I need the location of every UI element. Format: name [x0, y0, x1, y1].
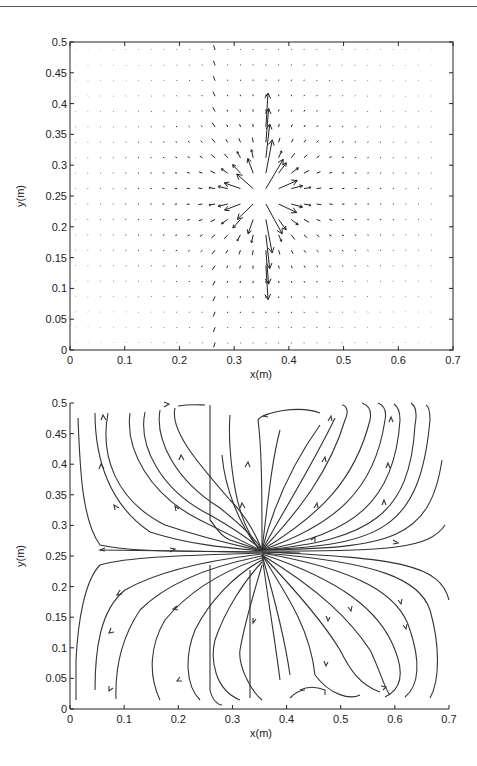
- quiver-plot: 00.10.20.30.40.50.60.700.050.10.150.20.2…: [0, 0, 477, 385]
- x-tick-label: 0.2: [171, 713, 186, 725]
- y-axis-label: y(m): [14, 185, 26, 207]
- y-axis-label: y(m): [14, 545, 26, 567]
- x-tick-label: 0.5: [333, 713, 348, 725]
- y-tick-label: 0.4: [52, 98, 67, 110]
- x-tick-label: 0.4: [281, 354, 296, 366]
- x-tick-label: 0.6: [391, 354, 406, 366]
- x-tick-label: 0.3: [226, 354, 241, 366]
- y-tick-label: 0.2: [52, 221, 67, 233]
- x-tick-label: 0.5: [336, 354, 351, 366]
- x-tick-label: 0: [67, 354, 73, 366]
- y-tick-label: 0.25: [46, 190, 67, 202]
- x-tick-label: 0: [67, 713, 73, 725]
- x-axis-label: x(m): [250, 368, 272, 380]
- y-tick-label: 0.15: [46, 611, 67, 623]
- y-tick-label: 0.05: [46, 313, 67, 325]
- y-tick-label: 0.1: [52, 282, 67, 294]
- y-tick-label: 0: [61, 344, 67, 356]
- x-tick-label: 0.4: [279, 713, 294, 725]
- plot-frame: [70, 42, 453, 350]
- vector-arrows: [75, 45, 431, 347]
- axis-ticks: 00.10.20.30.40.50.60.700.050.10.150.20.2…: [46, 36, 461, 366]
- x-tick-label: 0.6: [387, 713, 402, 725]
- x-tick-label: 0.1: [116, 713, 131, 725]
- y-tick-label: 0.25: [46, 550, 67, 562]
- y-tick-label: 0.1: [52, 642, 67, 654]
- y-tick-label: 0.05: [46, 672, 67, 684]
- y-tick-label: 0: [61, 703, 67, 715]
- x-tick-label: 0.1: [117, 354, 132, 366]
- y-tick-label: 0.2: [52, 581, 67, 593]
- axis-ticks: 00.10.20.30.40.50.60.700.050.10.150.20.2…: [46, 397, 457, 725]
- y-tick-label: 0.3: [52, 159, 67, 171]
- x-tick-label: 0.7: [441, 713, 456, 725]
- y-tick-label: 0.3: [52, 519, 67, 531]
- y-tick-label: 0.15: [46, 252, 67, 264]
- streamlines: [76, 403, 449, 705]
- x-tick-label: 0.7: [445, 354, 460, 366]
- y-tick-label: 0.5: [52, 397, 67, 409]
- x-tick-label: 0.3: [225, 713, 240, 725]
- y-tick-label: 0.45: [46, 67, 67, 79]
- y-tick-label: 0.45: [46, 428, 67, 440]
- x-tick-label: 0.2: [172, 354, 187, 366]
- streamline-plot: 00.10.20.30.40.50.60.700.050.10.150.20.2…: [0, 385, 477, 766]
- y-tick-label: 0.35: [46, 489, 67, 501]
- x-axis-label: x(m): [250, 727, 272, 739]
- y-tick-label: 0.4: [52, 458, 67, 470]
- y-tick-label: 0.35: [46, 128, 67, 140]
- y-tick-label: 0.5: [52, 36, 67, 48]
